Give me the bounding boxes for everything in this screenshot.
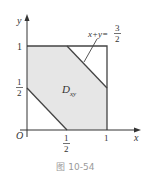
figure-caption: 图 10-54 — [0, 160, 151, 173]
line-label-equation: x+y= — [87, 29, 108, 39]
label-leader-line — [84, 39, 97, 62]
y-axis-label: y — [16, 15, 22, 26]
line-label-den: 2 — [115, 34, 120, 44]
x-tick-half-den: 2 — [64, 144, 69, 154]
region-diagram: y x O 1 1 2 1 2 1 x+y= 3 2 D xy — [0, 0, 151, 180]
region-label-subscript: xy — [69, 90, 77, 98]
x-axis-label: x — [133, 132, 139, 143]
x-tick-half-num: 1 — [64, 133, 69, 143]
x-tick-1: 1 — [104, 133, 109, 143]
y-tick-half-num: 1 — [17, 77, 22, 87]
y-tick-half-den: 2 — [17, 88, 22, 98]
y-tick-1: 1 — [17, 41, 22, 52]
line-label-num: 3 — [115, 23, 120, 33]
y-axis-arrow-icon — [25, 14, 30, 21]
origin-label: O — [16, 130, 23, 141]
region-label: D — [61, 83, 70, 95]
